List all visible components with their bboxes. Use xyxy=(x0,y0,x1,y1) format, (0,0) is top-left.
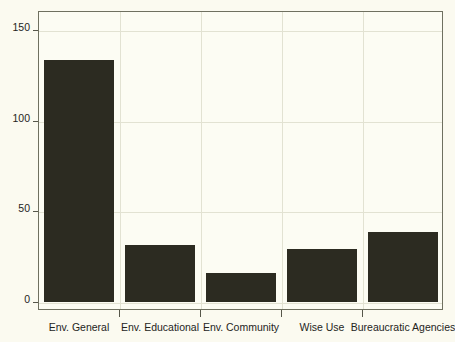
y-tick-50: 50 xyxy=(0,211,38,212)
bar-bureaucratic-agencies[interactable] xyxy=(368,232,438,302)
x-axis: Env. General Env. Educational Env. Commu… xyxy=(38,310,443,342)
x-label-bureaucratic-agencies: Bureaucratic Agencies xyxy=(351,321,455,333)
x-label-env-general: Env. General xyxy=(49,321,110,333)
y-tick-mark-150 xyxy=(33,30,38,31)
y-axis: 150 100 50 0 xyxy=(0,0,38,342)
y-tick-mark-50 xyxy=(33,211,38,212)
y-tick-mark-100 xyxy=(33,121,38,122)
y-tick-100: 100 xyxy=(0,121,38,122)
x-label-env-community: Env. Community xyxy=(203,321,279,333)
y-tick-label-150: 150 xyxy=(12,22,30,33)
x-label-wise-use: Wise Use xyxy=(300,321,345,333)
y-tick-label-100: 100 xyxy=(12,113,30,124)
x-tick-mark-2 xyxy=(200,310,201,317)
y-tick-0: 0 xyxy=(0,302,38,303)
x-tick-mark-1 xyxy=(119,310,120,317)
bar-env-general[interactable] xyxy=(44,60,114,302)
y-tick-label-50: 50 xyxy=(18,203,30,214)
x-tick-mark-4 xyxy=(362,310,363,317)
y-tick-mark-0 xyxy=(33,302,38,303)
bar-wise-use[interactable] xyxy=(287,249,357,302)
bar-env-community[interactable] xyxy=(206,273,276,302)
y-tick-label-0: 0 xyxy=(24,294,30,305)
y-tick-150: 150 xyxy=(0,30,38,31)
x-tick-mark-3 xyxy=(281,310,282,317)
bars-layer xyxy=(38,11,443,310)
x-label-env-educational: Env. Educational xyxy=(121,321,199,333)
bar-env-educational[interactable] xyxy=(125,245,195,302)
